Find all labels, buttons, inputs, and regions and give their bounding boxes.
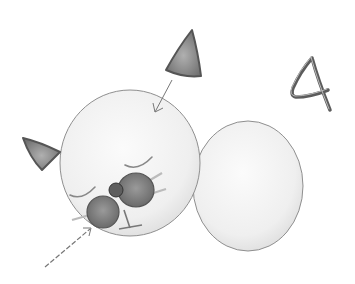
right-ear [166,30,201,76]
cat-illustration [0,0,355,284]
nose [109,183,123,197]
step-number-4 [291,57,330,110]
arrow-to-muzzle [45,228,91,267]
left-ear [23,138,60,170]
cat-body [193,121,303,251]
cat-head [60,90,200,236]
